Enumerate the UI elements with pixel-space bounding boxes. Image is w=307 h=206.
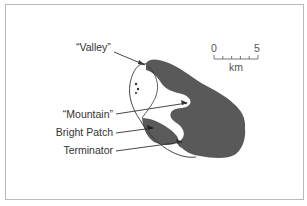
scale-start-label: 0	[211, 43, 217, 54]
scale-bar	[214, 55, 258, 59]
terminator-leader	[116, 142, 182, 151]
valley-label: “Valley”	[76, 42, 111, 53]
scale-unit-label: km	[229, 62, 243, 73]
asteroid-diagram	[0, 0, 307, 206]
terminator-label: Terminator	[63, 145, 113, 156]
scale-end-label: 5	[254, 43, 260, 54]
mountain-label: “Mountain”	[63, 109, 113, 120]
bright-patch-label: Bright Patch	[56, 127, 113, 138]
